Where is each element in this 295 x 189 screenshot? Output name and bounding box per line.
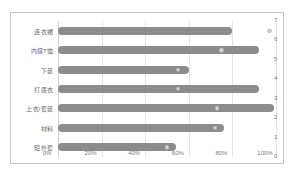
y-axis-tick-label: 0 bbox=[274, 153, 277, 159]
x-axis-tick-label: 0% bbox=[43, 150, 52, 156]
scatter-point bbox=[219, 48, 224, 53]
y-axis-tick-label: 7 bbox=[274, 17, 277, 23]
bar bbox=[58, 124, 224, 132]
category-label: 连衣裙 bbox=[34, 26, 53, 35]
bar bbox=[58, 104, 274, 112]
category-label: 材料 bbox=[41, 123, 53, 132]
category-label: 打底衣 bbox=[34, 84, 53, 93]
bar bbox=[58, 66, 189, 74]
y-axis-tick-label: 4 bbox=[274, 75, 277, 81]
scatter-point bbox=[165, 145, 170, 150]
category-label: 内搭T恤 bbox=[31, 46, 53, 55]
y-axis-right: 76543210 bbox=[270, 12, 286, 164]
x-axis-tick-label: 40% bbox=[128, 150, 140, 156]
bar-row: 材料 bbox=[58, 118, 276, 137]
bar-row: 上衣/套装 bbox=[58, 99, 276, 118]
chart-frame: 连衣裙内搭T恤下装打底衣上衣/套装材料短外套 bbox=[10, 12, 284, 164]
scatter-point bbox=[215, 106, 220, 111]
category-label: 上衣/套装 bbox=[26, 104, 53, 113]
bar-row: 连衣裙 bbox=[58, 21, 276, 40]
x-axis-tick-label: 80% bbox=[215, 150, 227, 156]
bar bbox=[58, 46, 259, 54]
scatter-point bbox=[176, 67, 181, 72]
x-axis: 0%20%40%60%80%100% bbox=[47, 150, 265, 162]
bar-row: 打底衣 bbox=[58, 79, 276, 98]
plot-area: 连衣裙内搭T恤下装打底衣上衣/套装材料短外套 bbox=[58, 21, 276, 157]
x-axis-tick-label: 60% bbox=[172, 150, 184, 156]
scatter-point bbox=[213, 126, 218, 131]
bar bbox=[58, 27, 232, 35]
x-axis-tick-label: 20% bbox=[85, 150, 97, 156]
bar-row: 内搭T恤 bbox=[58, 40, 276, 59]
y-axis-tick-label: 6 bbox=[274, 36, 277, 42]
y-axis-tick-label: 1 bbox=[274, 134, 277, 140]
category-label: 下装 bbox=[41, 65, 53, 74]
scatter-point bbox=[176, 87, 181, 92]
y-axis-tick-label: 5 bbox=[274, 56, 277, 62]
y-axis-tick-label: 3 bbox=[274, 95, 277, 101]
bar-row: 下装 bbox=[58, 60, 276, 79]
y-axis-tick-label: 2 bbox=[274, 114, 277, 120]
bar bbox=[58, 85, 259, 93]
